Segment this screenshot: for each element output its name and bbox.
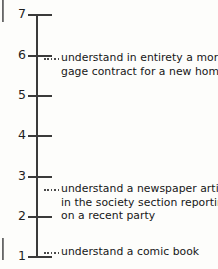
axis-tick-7 <box>28 14 52 16</box>
annotation-line: understand a comic book <box>61 245 215 259</box>
annotation-line: understand a newspaper article <box>61 182 215 196</box>
axis-tick-2 <box>28 216 52 218</box>
annotation-line: on a recent party <box>61 209 215 223</box>
axis-tick-6 <box>28 55 52 57</box>
axis-tick-label-3: 3 <box>14 170 26 182</box>
axis-tick-label-7: 7 <box>14 8 26 20</box>
leader-line-newspaper <box>44 189 59 191</box>
scan-artifact-bottom-icon <box>2 238 4 260</box>
annotation-mortgage: understand in entirety a mort- gage cont… <box>61 51 215 78</box>
axis-tick-label-2: 2 <box>14 210 26 222</box>
annotation-line: in the society section reporting <box>61 196 215 210</box>
leader-line-mortgage <box>44 58 59 60</box>
annotation-comic: understand a comic book <box>61 245 215 259</box>
annotation-line: gage contract for a new home <box>61 65 215 79</box>
figure-canvas: 7 6 5 4 3 2 1 understand in entirety a m… <box>0 0 218 269</box>
axis-tick-label-5: 5 <box>14 89 26 101</box>
axis-tick-label-1: 1 <box>14 250 26 262</box>
axis-tick-4 <box>28 135 52 137</box>
axis-tick-label-6: 6 <box>14 49 26 61</box>
axis-tick-label-4: 4 <box>14 129 26 141</box>
axis-tick-3 <box>28 176 52 178</box>
scan-artifact-top-icon <box>2 0 4 22</box>
annotation-line: understand in entirety a mort- <box>61 51 215 65</box>
annotation-newspaper: understand a newspaper article in the so… <box>61 182 215 223</box>
leader-line-comic <box>44 252 59 254</box>
axis-tick-5 <box>28 95 52 97</box>
axis-tick-1 <box>28 256 52 258</box>
